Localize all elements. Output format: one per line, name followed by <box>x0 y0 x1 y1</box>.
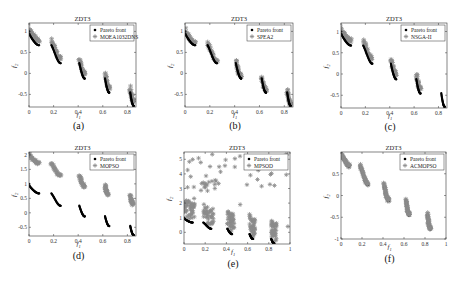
y-tick-label: -1 <box>334 236 339 242</box>
y-axis-label: f2 <box>10 63 19 68</box>
x-tick-label: 0.6 <box>256 109 263 115</box>
y-axis-label: f2 <box>322 64 331 69</box>
y-tick-label: 0 <box>180 70 183 76</box>
panel-label: (f) <box>385 253 395 265</box>
y-tick-label: 0 <box>179 229 182 235</box>
legend-entry-algorithm: SPEA2 <box>257 34 273 40</box>
legend-entry-algorithm: MOPSO <box>100 163 119 169</box>
y-tick-label: 1 <box>179 215 182 221</box>
x-tick-label: 0 <box>340 110 343 116</box>
legend-entry-pareto: Pareto front <box>100 156 127 162</box>
x-tick-label: 1 <box>445 241 448 247</box>
x-tick-label: 0 <box>28 109 31 115</box>
panel-label: (a) <box>73 120 84 132</box>
x-tick-label: 0.4 <box>223 246 230 252</box>
x-tick-label: 0.6 <box>401 241 408 247</box>
y-tick-label: 0 <box>24 70 27 76</box>
x-tick-label: 0.2 <box>202 246 209 252</box>
y-tick-label: 0 <box>24 210 27 216</box>
x-tick-label: 1 <box>289 246 292 252</box>
y-tick-label: 4 <box>179 171 182 177</box>
y-tick-label: -0.5 <box>18 224 27 230</box>
y-axis-label: f2 <box>10 192 19 197</box>
legend: Pareto frontACMOPSO <box>400 154 444 170</box>
subplot-b: ZDT300.20.40.60.8-0.500.51f1f2Pareto fro… <box>166 15 293 132</box>
x-tick-label: 0.8 <box>124 109 131 115</box>
y-tick-label: 0.5 <box>20 195 27 201</box>
y-tick-label: -0.5 <box>18 91 27 97</box>
y-axis-label: f2 <box>322 194 331 199</box>
subplot-title: ZDT3 <box>229 144 245 151</box>
subplot-title: ZDT3 <box>386 15 402 22</box>
y-tick-label: 0.5 <box>20 49 27 55</box>
legend: Pareto frontMOEA1032DNS <box>90 25 138 41</box>
y-tick-label: 5 <box>179 156 182 162</box>
x-tick-label: 0.2 <box>50 238 57 244</box>
y-tick-label: -0.5 <box>174 91 183 97</box>
legend: Pareto frontMPSOD <box>244 154 288 170</box>
series-pareto-front <box>340 30 446 108</box>
y-tick-label: 1 <box>180 28 183 34</box>
x-tick-label: 0.2 <box>359 241 366 247</box>
figure-grid: ZDT300.20.40.60.8-0.500.51f1f2Pareto fro… <box>0 0 468 281</box>
panel-label: (e) <box>227 258 238 270</box>
x-tick-label: 0.6 <box>411 110 418 116</box>
x-tick-label: 0.6 <box>99 238 106 244</box>
y-tick-label: 0 <box>336 193 339 199</box>
x-tick-label: 0.8 <box>422 241 429 247</box>
y-tick-label: -0.5 <box>330 92 339 98</box>
subplot-d: ZDT300.20.40.60.8-0.500.511.52f1f2Pareto… <box>10 144 136 262</box>
y-tick-label: 1 <box>24 181 27 187</box>
y-tick-label: 1 <box>336 29 339 35</box>
x-axis-label: f1 <box>231 248 235 257</box>
series-pareto-front <box>28 30 135 107</box>
y-tick-label: 3 <box>179 186 182 192</box>
x-tick-label: 0 <box>340 241 343 247</box>
subplot-f: ZDT300.20.40.60.81-1-0.500.5f1f2Pareto f… <box>322 144 448 265</box>
panel-label: (c) <box>384 121 395 133</box>
x-tick-label: 0.8 <box>265 246 272 252</box>
y-tick-label: 0 <box>336 71 339 77</box>
x-tick-label: 0.8 <box>435 110 442 116</box>
x-tick-label: 0 <box>183 246 186 252</box>
series-pareto-front <box>184 30 292 107</box>
subplot-title: ZDT3 <box>386 144 402 151</box>
legend-entry-algorithm: MOEA1032DNS <box>100 34 138 40</box>
legend-entry-pareto: Pareto front <box>257 27 284 33</box>
subplot-title: ZDT3 <box>231 15 247 22</box>
legend-entry-pareto: Pareto front <box>411 27 438 33</box>
x-tick-label: 0.8 <box>124 238 131 244</box>
subplot-title: ZDT3 <box>75 15 91 22</box>
legend: Pareto frontNSGA-II <box>401 25 445 41</box>
x-tick-label: 0.6 <box>99 109 106 115</box>
y-axis-label: f2 <box>165 196 174 201</box>
x-tick-label: 0.8 <box>281 109 288 115</box>
y-tick-label: 0.5 <box>332 171 339 177</box>
y-tick-label: 0.5 <box>332 50 339 56</box>
x-tick-label: 0.2 <box>206 109 213 115</box>
subplot-e: ZDT300.20.40.60.81012345f1f2Pareto front… <box>165 144 292 270</box>
legend-entry-pareto: Pareto front <box>100 27 127 33</box>
x-tick-label: 0.2 <box>50 109 57 115</box>
legend-entry-algorithm: MPSOD <box>254 163 273 169</box>
x-tick-label: 0 <box>184 109 187 115</box>
x-tick-label: 0.6 <box>244 246 251 252</box>
x-axis-label: f1 <box>388 243 392 252</box>
legend: Pareto frontSPEA2 <box>247 25 291 41</box>
legend: Pareto frontMOPSO <box>90 154 134 170</box>
x-tick-label: 0 <box>28 238 31 244</box>
y-tick-label: 0.5 <box>176 49 183 55</box>
legend-entry-pareto: Pareto front <box>254 156 281 162</box>
x-tick-label: 0.2 <box>362 110 369 116</box>
subplot-title: ZDT3 <box>75 144 91 151</box>
y-tick-label: -0.5 <box>330 214 339 220</box>
y-tick-label: 1.5 <box>20 166 27 172</box>
x-tick-label: 0.4 <box>380 241 387 247</box>
legend-entry-algorithm: NSGA-II <box>411 34 432 40</box>
subplot-c: ZDT300.20.40.60.8-0.500.51f1f2Pareto fro… <box>322 15 447 133</box>
y-tick-label: 2 <box>179 200 182 206</box>
legend-entry-algorithm: ACMOPSO <box>410 163 437 169</box>
series-pareto-front <box>28 183 135 237</box>
y-tick-label: 2 <box>24 152 27 158</box>
panel-label: (d) <box>73 250 85 262</box>
